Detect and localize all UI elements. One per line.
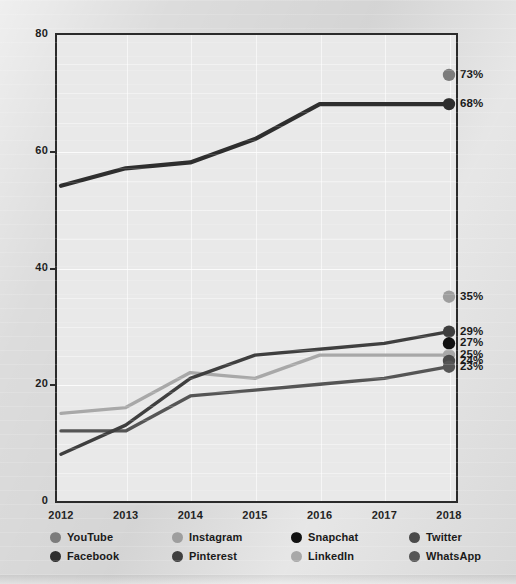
legend-item-pinterest[interactable]: Pinterest [172, 550, 237, 562]
endpoint-dot-snapchat [443, 337, 455, 349]
legend-label: Facebook [67, 550, 119, 562]
chart-container: 806040200 2012201320142015201620172018 7… [0, 0, 516, 584]
endpoint-dot-whatsapp [443, 361, 455, 373]
legend-label: WhatsApp [426, 550, 481, 562]
legend-label: Pinterest [189, 550, 237, 562]
end-value-label-pinterest: 29% [460, 325, 483, 337]
legend-label: Instagram [189, 531, 242, 543]
series-lines [0, 0, 516, 584]
endpoint-dots [443, 69, 455, 373]
legend-label: YouTube [67, 531, 113, 543]
line-series-facebook [61, 104, 449, 186]
legend: YouTubeInstagramSnapchatTwitterFacebookP… [50, 531, 470, 571]
legend-color-dot-youtube [50, 532, 61, 543]
legend-color-dot-facebook [50, 551, 61, 562]
legend-item-youtube[interactable]: YouTube [50, 531, 113, 543]
legend-item-instagram[interactable]: Instagram [172, 531, 242, 543]
line-series-linkedin [61, 355, 449, 413]
end-value-label-snapchat: 27% [460, 336, 483, 348]
end-value-label-instagram: 35% [460, 290, 483, 302]
legend-item-facebook[interactable]: Facebook [50, 550, 119, 562]
endpoint-dot-youtube [443, 69, 455, 81]
line-series-whatsapp [61, 367, 449, 431]
legend-item-twitter[interactable]: Twitter [409, 531, 462, 543]
end-value-label-youtube: 73% [460, 68, 483, 80]
end-value-label-facebook: 68% [460, 97, 483, 109]
end-value-label-whatsapp: 23% [460, 360, 483, 372]
legend-label: Twitter [426, 531, 462, 543]
legend-color-dot-linkedin [291, 551, 302, 562]
endpoint-dot-pinterest [443, 326, 455, 338]
legend-color-dot-pinterest [172, 551, 183, 562]
endpoint-dot-facebook [443, 98, 455, 110]
legend-color-dot-snapchat [291, 532, 302, 543]
legend-label: LinkedIn [308, 550, 354, 562]
legend-item-snapchat[interactable]: Snapchat [291, 531, 358, 543]
line-series-pinterest [61, 332, 449, 455]
legend-color-dot-instagram [172, 532, 183, 543]
legend-label: Snapchat [308, 531, 358, 543]
page-bottom-edge [0, 575, 516, 584]
legend-item-linkedin[interactable]: LinkedIn [291, 550, 354, 562]
line-paths [61, 104, 449, 454]
legend-color-dot-whatsapp [409, 551, 420, 562]
endpoint-dot-instagram [443, 291, 455, 303]
legend-item-whatsapp[interactable]: WhatsApp [409, 550, 481, 562]
legend-color-dot-twitter [409, 532, 420, 543]
